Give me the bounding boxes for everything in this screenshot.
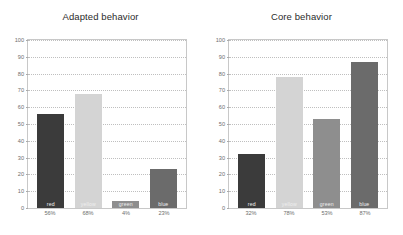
bar-category-label: yellow [276,201,303,207]
y-axis-tick-label: 50 [219,121,225,127]
bar: yellow [276,77,303,208]
y-axis-tick-label: 0 [21,205,24,211]
bar: red [37,114,64,208]
y-axis-tick-label: 40 [18,138,24,144]
x-axis-data-labels: 56%68%4%23% [27,210,187,216]
chart-title: Adapted behavior [0,11,201,22]
bar-value-label: 68% [75,210,102,216]
chart-panel-core-behavior: Core behavior 0102030405060708090100 red… [201,0,402,235]
bar: red [238,154,265,208]
y-axis-tick-label: 90 [219,54,225,60]
bar-value-label: 32% [238,210,265,216]
bar-slot: blue [150,40,177,208]
x-axis-data-labels: 32%78%53%87% [228,210,388,216]
bar: blue [351,62,378,208]
y-axis-tick-label: 40 [219,138,225,144]
bar-slot: red [238,40,265,208]
bar-slot: yellow [276,40,303,208]
y-axis-tick-mark [227,208,230,209]
y-axis-tick-label: 0 [222,205,225,211]
y-axis-tick-label: 30 [219,155,225,161]
y-axis-tick-label: 90 [18,54,24,60]
y-axis-tick-label: 80 [219,71,225,77]
bar-group: redyellowgreenblue [229,40,387,208]
y-axis-tick-label: 10 [18,188,24,194]
chart-title: Core behavior [201,11,402,22]
y-axis-tick-label: 100 [216,37,225,43]
bar: yellow [75,94,102,208]
bar-category-label: yellow [75,201,102,207]
y-axis-tick-label: 30 [18,155,24,161]
y-axis-tick-label: 10 [219,188,225,194]
y-axis-tick-label: 50 [18,121,24,127]
bar-value-label: 53% [314,210,341,216]
y-axis-tick-label: 20 [219,171,225,177]
y-axis-tick-label: 60 [18,104,24,110]
plot-area-adapted-behavior: 0102030405060708090100 redyellowgreenblu… [27,39,187,209]
chart-sheet: Adapted behavior 0102030405060708090100 … [0,0,403,235]
y-axis-tick-label: 20 [18,171,24,177]
bar-category-label: red [37,201,64,207]
bar-value-label: 4% [113,210,140,216]
bar-category-label: green [112,201,139,207]
bar-slot: green [313,40,340,208]
y-axis-tick-mark [26,208,29,209]
chart-panel-adapted-behavior: Adapted behavior 0102030405060708090100 … [0,0,201,235]
bar-value-label: 87% [352,210,379,216]
plot-area-core-behavior: 0102030405060708090100 redyellowgreenblu… [228,39,388,209]
bar-category-label: red [238,201,265,207]
bar-group: redyellowgreenblue [28,40,186,208]
bar-value-label: 56% [37,210,64,216]
bar-category-label: blue [150,201,177,207]
y-axis-tick-label: 100 [15,37,24,43]
bar-slot: red [37,40,64,208]
y-axis-tick-label: 70 [219,87,225,93]
bar-slot: yellow [75,40,102,208]
bar-value-label: 78% [276,210,303,216]
bar-category-label: green [313,201,340,207]
bar-value-label: 23% [151,210,178,216]
bar-slot: green [112,40,139,208]
bar-category-label: blue [351,201,378,207]
bar-slot: blue [351,40,378,208]
bar: green [313,119,340,208]
y-axis-tick-label: 80 [18,71,24,77]
y-axis-tick-label: 60 [219,104,225,110]
y-axis-tick-label: 70 [18,87,24,93]
bar: blue [150,169,177,208]
bar: green [112,201,139,208]
